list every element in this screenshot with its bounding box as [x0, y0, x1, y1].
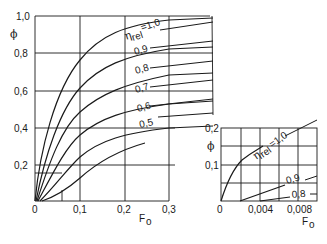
inset-x-axis: 0 0,004 0,008 F o: [217, 204, 315, 230]
inset-x-axis-label-sub: o: [309, 219, 315, 230]
label-eta-0-7: 0,7: [134, 81, 151, 95]
label-eta-1-0: =1,0: [139, 16, 162, 33]
x-tick-0-3: 0,3: [162, 204, 176, 215]
y-tick-0-6: 0,6: [14, 86, 28, 97]
curve-eta-0-6: [40, 126, 213, 201]
inset-curve-eta-0-8: [260, 197, 290, 201]
inset-label-eta-1-0: =1,0: [267, 129, 290, 150]
x-tick-0-1: 0,1: [73, 204, 87, 215]
label-eta-0-8: 0,8: [134, 62, 151, 76]
inset-y-tick-0-2: 0,2: [205, 123, 219, 134]
x-tick-0-2: 0,2: [117, 204, 131, 215]
inset-chart: η rel =1,0 0,9 0,8 0,2 ϕ 0,1 0 0,004 0,0…: [205, 120, 317, 230]
y-tick-0-2: 0,2: [14, 160, 28, 171]
inset-y-axis-label: ϕ: [207, 140, 215, 153]
main-chart: η rel =1,0 0,9 0,8 0,7 0,6 0,5 1,0 ϕ 0,8…: [10, 11, 213, 227]
inset-x-tick-0: 0: [217, 204, 223, 215]
inset-x-axis-label: F: [302, 216, 308, 227]
inset-x-tick-0-004: 0,004: [248, 204, 273, 215]
curve-eta-0-9: [36, 47, 213, 201]
inset-label-eta-0-8: 0,8: [291, 188, 306, 200]
x-tick-0: 0: [32, 204, 38, 215]
chart-canvas: η rel =1,0 0,9 0,8 0,7 0,6 0,5 1,0 ϕ 0,8…: [0, 0, 327, 244]
main-y-axis: 1,0 ϕ 0,8 0,6 0,4 0,2: [10, 11, 30, 171]
curve-eta-1-0: [35, 18, 213, 201]
y-axis-label: ϕ: [10, 28, 18, 41]
y-tick-1-0: 1,0: [16, 11, 30, 22]
curve-eta-0-7: [38, 101, 213, 201]
label-eta-0-6: 0,6: [136, 100, 153, 114]
main-x-axis: 0 0,1 0,2 0,3 F o: [32, 204, 176, 227]
x-axis-label: F: [139, 213, 145, 224]
main-curves: [35, 18, 213, 201]
inset-y-axis: 0,2 ϕ 0,1: [205, 123, 219, 171]
inset-label-eta-0-9: 0,9: [285, 172, 302, 186]
inset-y-tick-0-1: 0,1: [205, 160, 219, 171]
curve-label-leaders: [150, 22, 213, 117]
y-tick-0-8: 0,8: [14, 48, 28, 59]
curve-labels: η rel =1,0 0,9 0,8 0,7 0,6 0,5: [123, 16, 162, 130]
curve-eta-0-5: [42, 143, 145, 201]
x-axis-label-sub: o: [146, 216, 152, 227]
y-tick-0-4: 0,4: [14, 123, 28, 134]
label-eta-0-9: 0,9: [133, 43, 150, 57]
inset-x-tick-0-008: 0,008: [287, 204, 312, 215]
